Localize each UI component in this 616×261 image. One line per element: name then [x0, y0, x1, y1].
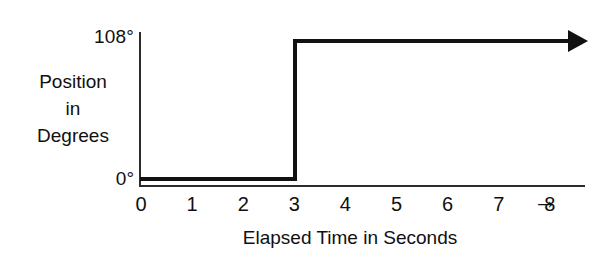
x-axis-tick-label-8: 8	[536, 191, 564, 217]
x-axis-tick-label-5: 5	[383, 191, 411, 217]
step-segment-low	[140, 177, 297, 181]
trace-arrow-icon	[568, 30, 588, 52]
y-axis-line	[139, 32, 141, 187]
x-axis-tick-label-0: 0	[127, 191, 155, 217]
chart-canvas: → 108° 0° Position in Degrees 012345678 …	[0, 0, 616, 261]
step-segment-riser	[293, 39, 297, 181]
x-axis-tick-label-2: 2	[229, 191, 257, 217]
x-axis-tick-label-1: 1	[178, 191, 206, 217]
y-axis-title: Position in Degrees	[14, 68, 132, 149]
y-axis-tick-label-108: 108°	[58, 26, 134, 48]
x-axis-line	[139, 185, 585, 187]
y-axis-title-line-1: Position	[14, 68, 132, 95]
y-axis-tick-label-0: 0°	[92, 168, 134, 190]
x-axis-tick-label-6: 6	[434, 191, 462, 217]
x-axis-tick-label-7: 7	[485, 191, 513, 217]
x-axis-tick-label-4: 4	[331, 191, 359, 217]
x-axis-tick-label-3: 3	[280, 191, 308, 217]
x-axis-title: Elapsed Time in Seconds	[140, 227, 560, 249]
step-segment-high	[293, 39, 571, 43]
y-axis-title-line-3: Degrees	[14, 122, 132, 149]
y-axis-title-line-2: in	[14, 95, 132, 122]
